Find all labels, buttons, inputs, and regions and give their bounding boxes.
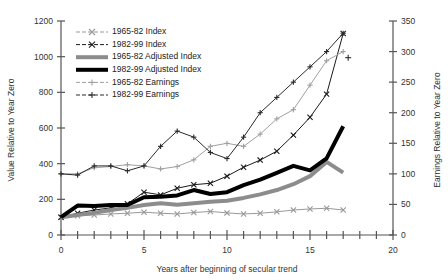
y2-tick-label: 200	[401, 108, 415, 118]
legend-item-label: 1982-99 Index	[112, 39, 167, 49]
secular-trend-line-chart: 020040060080010001200 050100150200250300…	[0, 0, 448, 280]
legend-item-label: 1965-82 Index	[112, 26, 167, 36]
x-tick-label: 0	[59, 245, 64, 255]
y-tick-label: 600	[39, 123, 53, 133]
x-tick-label: 20	[388, 245, 398, 255]
y-tick-label: 800	[39, 87, 53, 97]
y2-axis-title: Earnings Relative to Year Zero	[432, 72, 442, 188]
y2-tick-label: 350	[401, 16, 415, 26]
legend-item-label: 1965-82 Adjusted Index	[112, 51, 202, 61]
y2-tick-label: 50	[401, 199, 411, 209]
legend-item-label: 1982-99 Earnings	[112, 89, 179, 99]
legend-item-label: 1965-82 Earnings	[112, 77, 179, 87]
y2-tick-label: 250	[401, 77, 415, 87]
x-tick-label: 5	[142, 245, 147, 255]
x-tick-label: 15	[305, 245, 315, 255]
y-tick-label: 1000	[34, 52, 53, 62]
y2-tick-label: 150	[401, 138, 415, 148]
y2-tick-label: 0	[401, 230, 406, 240]
y2-tick-label: 100	[401, 169, 415, 179]
legend-item-label: 1982-99 Adjusted Index	[112, 64, 202, 74]
x-tick-label: 10	[222, 245, 232, 255]
x-axis-title: Years after beginning of secular trend	[157, 264, 298, 274]
chart-background	[0, 0, 448, 280]
y-tick-label: 0	[48, 230, 53, 240]
y-tick-label: 200	[39, 194, 53, 204]
chart-container: 020040060080010001200 050100150200250300…	[0, 0, 448, 280]
y2-tick-label: 300	[401, 47, 415, 57]
y-tick-label: 400	[39, 159, 53, 169]
y-tick-label: 1200	[34, 16, 53, 26]
y-axis-title: Value Relative to Year Zero	[6, 78, 16, 181]
